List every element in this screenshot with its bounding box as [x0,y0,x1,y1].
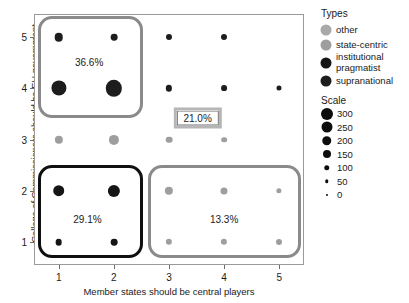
legend-scale-circle-icon [318,188,335,202]
y-tick-label: 2 [5,185,27,196]
legend-scale-circle-icon [318,134,335,148]
legend-scale-row: 0 [318,188,408,202]
data-point [277,86,282,91]
data-point [221,187,228,194]
y-tick-mark [30,140,34,141]
legend-scale-row: 100 [318,161,408,175]
x-tick-label: 2 [102,272,126,283]
data-point [55,239,62,246]
x-tick-mark [279,265,280,269]
legend-type-row: supranational [318,73,408,88]
legend-scale-row: 250 [318,121,408,135]
cluster-percentage-label: 36.6% [75,56,103,67]
legend-scale-circle-icon [318,161,335,175]
x-tick-label: 5 [267,272,291,283]
legend-type-circle-icon [318,37,333,52]
legend-type-circle-icon [318,73,333,88]
legend-scale-row: 150 [318,148,408,162]
legend-scale-label: 100 [335,162,353,173]
x-tick-label: 3 [157,272,181,283]
bubble-chart-figure: Collage of Commissioners should be EU go… [0,0,409,303]
data-point [166,136,173,143]
boxed-percentage-label: 21.0% [173,107,221,128]
legend-scale-circle-icon [318,107,335,121]
data-point [53,185,65,197]
legend-scale-circle-icon [318,175,335,189]
legend-scale-label: 50 [335,176,348,187]
legend-scale-label: 150 [335,149,353,160]
legend-scale-circle-icon [318,121,335,135]
data-point [111,239,118,246]
cluster-outline [38,165,142,258]
x-tick-mark [114,265,115,269]
legend-type-row: state-centric [318,37,408,52]
legend-scale-rows: 300250200150100500 [318,107,408,202]
x-tick-mark [59,265,60,269]
y-tick-mark [30,88,34,89]
y-tick-mark [30,37,34,38]
legend-type-label: other [333,24,358,35]
x-tick-mark [169,265,170,269]
legend-type-label: institutionalpragmatist [333,52,384,73]
legend-types-rows: otherstate-centricinstitutionalpragmatis… [318,22,408,88]
x-tick-label: 4 [212,272,236,283]
legend-type-row: institutionalpragmatist [318,52,408,73]
y-tick-label: 5 [5,32,27,43]
legend-scale-circle-icon [318,148,335,162]
legend-type-label: supranational [333,75,393,86]
legend-types-title: Types [318,8,408,19]
data-point [221,85,227,91]
legend-scale-label: 0 [335,189,342,200]
legend-type-circle-icon [318,55,333,70]
y-tick-label: 3 [5,134,27,145]
legend-scale-label: 200 [335,135,353,146]
x-axis-title: Member states should be central players [34,286,304,297]
x-tick-label: 1 [47,272,71,283]
y-tick-mark [30,191,34,192]
cluster-percentage-label: 13.3% [210,213,238,224]
legend-scale-row: 50 [318,175,408,189]
cluster-percentage-label: 29.1% [73,213,101,224]
legend-type-label: state-centric [333,39,388,50]
legend-scale-title: Scale [318,95,408,106]
y-tick-label: 4 [5,83,27,94]
data-point [111,34,118,41]
x-tick-mark [224,265,225,269]
data-point [221,137,227,143]
y-tick-mark [30,242,34,243]
legend-scale-row: 300 [318,107,408,121]
data-point [55,33,64,42]
legend-type-circle-icon [318,22,333,37]
legend-type-row: other [318,22,408,37]
legend-scale-row: 200 [318,134,408,148]
legend-scale-label: 300 [335,108,353,119]
y-tick-label: 1 [5,236,27,247]
chart-legend: Types otherstate-centricinstitutionalpra… [318,8,408,202]
legend-scale-label: 250 [335,122,353,133]
